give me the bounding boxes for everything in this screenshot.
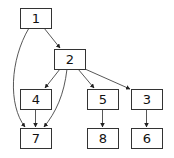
edge-2-to-4 — [45, 69, 60, 88]
node-label: 4 — [32, 92, 40, 107]
node-5[interactable]: 5 — [88, 90, 119, 110]
node-label: 8 — [99, 131, 107, 146]
node-3[interactable]: 3 — [132, 90, 163, 110]
node-label: 7 — [32, 131, 40, 146]
node-label: 1 — [32, 11, 40, 26]
node-label: 3 — [143, 92, 151, 107]
node-label: 6 — [143, 131, 151, 146]
node-1[interactable]: 1 — [21, 9, 52, 29]
node-2[interactable]: 2 — [55, 50, 86, 70]
edge-1-to-7 — [13, 28, 29, 127]
node-label: 5 — [99, 92, 107, 107]
graph-canvas: 1 2 4 5 3 7 8 6 — [0, 0, 174, 158]
node-label: 2 — [66, 52, 74, 67]
node-7[interactable]: 7 — [21, 129, 52, 149]
node-4[interactable]: 4 — [21, 90, 52, 110]
edges — [13, 28, 146, 127]
edge-1-to-2 — [44, 28, 60, 48]
node-6[interactable]: 6 — [132, 129, 163, 149]
node-8[interactable]: 8 — [88, 129, 119, 149]
